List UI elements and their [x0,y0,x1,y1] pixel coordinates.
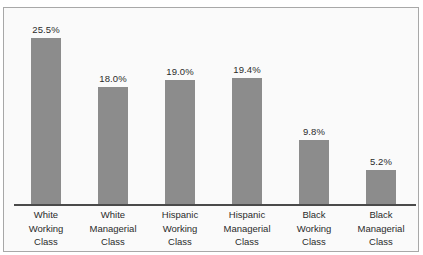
bar-group: 19.0% [148,8,212,204]
bar-rect[interactable] [165,80,195,204]
x-axis-line [14,204,416,206]
bar-value-label: 19.4% [215,64,279,75]
bar-group: 25.5% [14,8,78,204]
category-label: Black Working Class [277,208,351,249]
category-label-line: Working [143,222,217,236]
category-label-line: Managerial [344,222,418,236]
category-label-line: White [76,208,150,222]
category-label-line: Class [344,235,418,249]
category-label-line: White [9,208,83,222]
bar-value-label: 5.2% [349,156,413,167]
category-label: Hispanic Managerial Class [210,208,284,249]
category-label-line: Class [76,235,150,249]
category-label: White Working Class [9,208,83,249]
category-label-line: Working [277,222,351,236]
category-label-line: Managerial [210,222,284,236]
bar-rect[interactable] [232,78,262,204]
bar-rect[interactable] [31,38,61,204]
bar-group: 19.4% [215,8,279,204]
plot-area: 25.5% 18.0% 19.0% 19.4% 9.8% 5.2% [14,8,414,204]
category-label-line: Working [9,222,83,236]
bar-rect[interactable] [366,170,396,204]
category-label-line: Black [277,208,351,222]
category-label-line: Class [143,235,217,249]
bar-rect[interactable] [98,87,128,204]
category-label-line: Hispanic [143,208,217,222]
category-label-line: Hispanic [210,208,284,222]
bar-value-label: 9.8% [282,126,346,137]
bar-group: 18.0% [81,8,145,204]
bar-rect[interactable] [299,140,329,204]
category-label-line: Class [9,235,83,249]
bar-value-label: 18.0% [81,73,145,84]
bar-group: 5.2% [349,8,413,204]
bar-value-label: 25.5% [14,24,78,35]
category-label-line: Black [344,208,418,222]
category-label-line: Class [277,235,351,249]
category-label-line: Class [210,235,284,249]
category-label-line: Managerial [76,222,150,236]
bar-value-label: 19.0% [148,66,212,77]
category-axis-labels: White Working Class White Managerial Cla… [14,208,414,254]
category-label: Black Managerial Class [344,208,418,249]
bar-group: 9.8% [282,8,346,204]
chart-frame: 25.5% 18.0% 19.0% 19.4% 9.8% 5.2% White [3,7,419,252]
category-label: White Managerial Class [76,208,150,249]
category-label: Hispanic Working Class [143,208,217,249]
